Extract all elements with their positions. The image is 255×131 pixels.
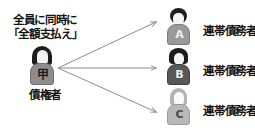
creditor-body: 甲 [30, 63, 54, 85]
creditor-demand-text: 全員に同時に 「全額支払え」 [0, 13, 90, 41]
creditor-badge-label: 甲 [31, 69, 55, 81]
debtor-row-c: C 連帯債務者 [165, 88, 255, 126]
joint-debt-diagram: 全員に同時に 「全額支払え」 甲 債権者 A 連帯債務者 B [0, 0, 255, 131]
debtor-label-b: 連帯債務者 [203, 62, 255, 78]
debtor-row-a: A 連帯債務者 [165, 8, 255, 46]
creditor-label: 債権者 [0, 86, 90, 102]
debtor-letter-a: A [168, 29, 191, 40]
debtor-letter-c: C [168, 109, 191, 120]
debtor-label-a: 連帯債務者 [203, 22, 255, 38]
person-round-hair-icon: A [165, 8, 195, 46]
debtor-body: A [167, 24, 190, 45]
debtor-label-c: 連帯債務者 [203, 102, 255, 118]
demand-line-1: 全員に同時に [0, 13, 90, 27]
creditor-avatar: 甲 [28, 46, 56, 86]
person-long-hair-icon: C [165, 88, 195, 126]
debtor-row-b: B 連帯債務者 [165, 48, 255, 86]
demand-line-2: 「全額支払え」 [0, 27, 90, 41]
debtor-body: B [167, 64, 190, 85]
person-short-hair-icon: B [165, 48, 195, 86]
debtor-body: C [167, 104, 190, 125]
debtor-letter-b: B [168, 69, 191, 80]
